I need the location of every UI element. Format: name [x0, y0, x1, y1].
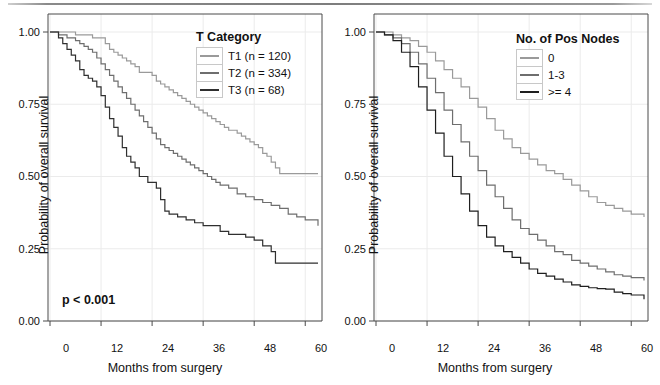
- y-tick-label-025: 0.25: [6, 243, 40, 255]
- x-tick-label-60: 60: [633, 342, 660, 354]
- y-tick-label-025: 0.25: [332, 243, 366, 255]
- x-tick-label-48: 48: [256, 342, 284, 354]
- legend-label: T3 (n = 68): [228, 84, 285, 96]
- y-axis-label: Probability of overall survival: [367, 45, 381, 305]
- legend-title: T Category: [196, 30, 291, 44]
- legend-line-swatch: [200, 72, 219, 74]
- legend-entries: T1 (n = 120) T2 (n = 334) T3 (n = 68): [196, 47, 291, 98]
- y-tick-label-000: 0.00: [6, 315, 40, 327]
- legend-label: T1 (n = 120): [228, 50, 291, 62]
- legend-key-icon: [196, 81, 223, 98]
- panel-t-category: Probability of overall survival Months f…: [0, 0, 330, 385]
- legend-line-swatch: [200, 89, 219, 91]
- legend-title: No. of Pos Nodes: [516, 32, 619, 46]
- legend-key-icon: [516, 83, 543, 100]
- x-tick-label-12: 12: [429, 342, 457, 354]
- legend-item-t2[interactable]: T2 (n = 334): [196, 64, 291, 81]
- legend-label: 1-3: [548, 69, 565, 81]
- legend-key-icon: [516, 66, 543, 83]
- y-tick-label-050: 0.50: [332, 170, 366, 182]
- x-tick-label-36: 36: [531, 342, 559, 354]
- x-tick-label-48: 48: [582, 342, 610, 354]
- x-axis-label: Months from surgery: [330, 361, 660, 375]
- legend-item-ge-4[interactable]: >= 4: [516, 83, 619, 100]
- legend-line-swatch: [520, 74, 539, 76]
- survival-figure: Probability of overall survival Months f…: [0, 0, 660, 385]
- y-tick-label-100: 1.00: [332, 26, 366, 38]
- x-tick-label-12: 12: [103, 342, 131, 354]
- legend-pos-nodes: No. of Pos Nodes 0 1-3 >= 4: [516, 32, 619, 100]
- p-value-annotation: p < 0.001: [62, 293, 115, 307]
- y-tick-label-050: 0.50: [6, 170, 40, 182]
- x-tick-label-0: 0: [378, 342, 406, 354]
- legend-item-t3[interactable]: T3 (n = 68): [196, 81, 291, 98]
- x-tick-label-24: 24: [154, 342, 182, 354]
- y-tick-label-000: 0.00: [332, 315, 366, 327]
- y-tick-label-100: 1.00: [6, 26, 40, 38]
- legend-t-category: T Category T1 (n = 120) T2 (n = 334) T3 …: [196, 30, 291, 98]
- legend-item-t1[interactable]: T1 (n = 120): [196, 47, 291, 64]
- x-tick-label-36: 36: [205, 342, 233, 354]
- legend-line-swatch: [520, 57, 539, 59]
- x-axis-label: Months from surgery: [0, 361, 330, 375]
- x-tick-label-0: 0: [52, 342, 80, 354]
- y-tick-label-075: 0.75: [332, 98, 366, 110]
- legend-label: >= 4: [548, 86, 571, 98]
- legend-line-swatch: [520, 91, 539, 93]
- legend-label: 0: [548, 52, 554, 64]
- legend-key-icon: [196, 64, 223, 81]
- legend-key-icon: [516, 49, 543, 66]
- legend-label: T2 (n = 334): [228, 67, 291, 79]
- legend-item-1-3[interactable]: 1-3: [516, 66, 619, 83]
- panel-pos-nodes: Probability of overall survival Months f…: [330, 0, 660, 385]
- legend-item-0[interactable]: 0: [516, 49, 619, 66]
- legend-entries: 0 1-3 >= 4: [516, 49, 619, 100]
- legend-line-swatch: [200, 55, 219, 57]
- x-tick-label-24: 24: [480, 342, 508, 354]
- y-tick-label-075: 0.75: [6, 98, 40, 110]
- legend-key-icon: [196, 47, 223, 64]
